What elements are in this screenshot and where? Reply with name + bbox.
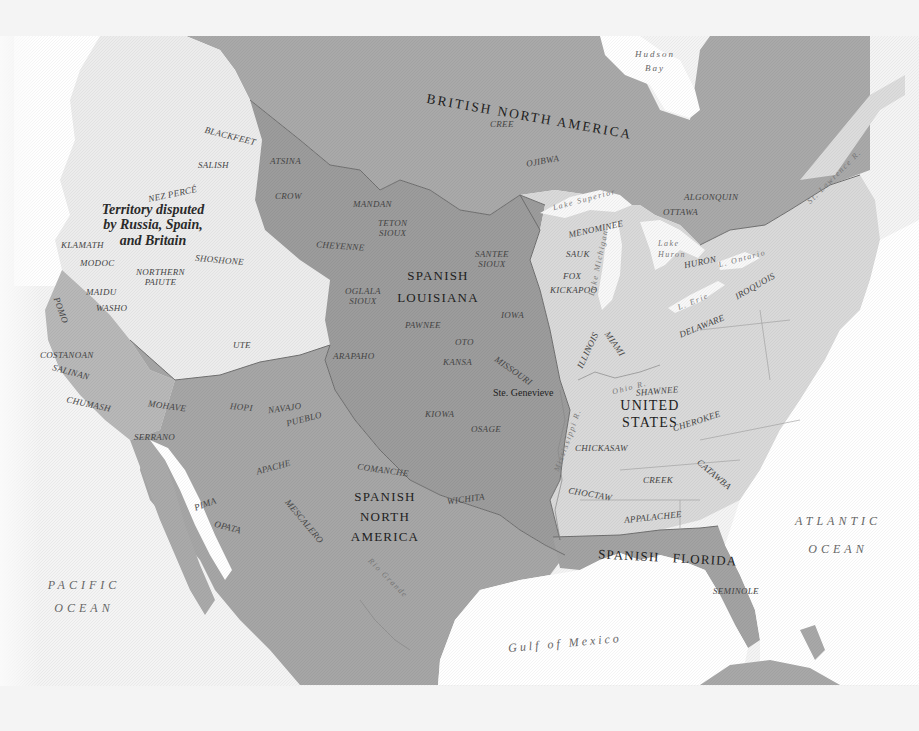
- tribe-hopi: HOPI: [230, 402, 253, 413]
- label-spanish-louisiana: SPANISH LOUISIANA: [388, 265, 488, 309]
- tribe-osage: OSAGE: [471, 425, 501, 434]
- tribe-ottawa: OTTAWA: [663, 208, 698, 217]
- label-pacific-2: OCEAN: [44, 597, 124, 620]
- tribe-kiowa: KIOWA: [425, 410, 454, 419]
- label-disputed-territory: Territory disputed by Russia, Spain, and…: [88, 202, 218, 248]
- tribe-pawnee: PAWNEE: [405, 321, 441, 330]
- label-spanish-louisiana-1: SPANISH: [388, 265, 488, 287]
- label-hudson-bay-1: Hudson: [635, 48, 675, 62]
- tribe-teton-sioux-2: SIOUX: [378, 229, 407, 239]
- tribe-washo: WASHO: [96, 304, 127, 313]
- label-hudson-bay: Hudson Bay: [635, 48, 675, 75]
- tribe-creek: CREEK: [643, 476, 673, 485]
- label-hudson-bay-2: Bay: [635, 62, 675, 76]
- tribe-serrano: SERRANO: [134, 433, 175, 442]
- tribe-oglala-sioux-2: SIOUX: [345, 297, 381, 307]
- tribe-seminole: SEMINOLE: [713, 587, 759, 596]
- tribe-algonquin: ALGONQUIN: [684, 193, 738, 202]
- tribe-northern-paiute: NORTHERN PAIUTE: [136, 268, 185, 288]
- tribe-atsina: ATSINA: [270, 157, 301, 166]
- label-atlantic-ocean: ATLANTIC OCEAN: [788, 508, 888, 563]
- label-spanish-north-america-1: SPANISH: [340, 487, 430, 507]
- label-ste-genevieve: Ste. Genevieve: [493, 388, 554, 398]
- tribe-maidu: MAIDU: [86, 288, 117, 297]
- tribe-ute: UTE: [233, 341, 251, 350]
- tribe-modoc: MODOC: [80, 259, 115, 268]
- label-spanish-north-america: SPANISH NORTH AMERICA: [340, 487, 430, 547]
- tribe-teton-sioux: TETON SIOUX: [378, 219, 407, 239]
- tribe-mandan: MANDAN: [353, 200, 392, 209]
- label-disputed-line-2: by Russia, Spain,: [88, 217, 218, 232]
- tribe-oto: OTO: [455, 338, 474, 347]
- label-lake-huron-1: Lake: [658, 238, 686, 249]
- tribe-klamath: KLAMATH: [61, 241, 104, 250]
- tribe-fox: FOX: [563, 272, 581, 281]
- label-spanish-north-america-3: AMERICA: [340, 527, 430, 547]
- tribe-iowa: IOWA: [501, 311, 524, 320]
- label-lake-huron: Lake Huron: [658, 238, 686, 260]
- tribe-oglala-sioux: OGLALA SIOUX: [345, 287, 381, 307]
- tribe-salish: SALISH: [198, 161, 229, 170]
- label-atlantic-2: OCEAN: [788, 536, 888, 564]
- tribe-arapaho: ARAPAHO: [333, 352, 374, 361]
- historical-map-north-america: BRITISH NORTH AMERICA Territory disputed…: [0, 0, 919, 731]
- label-pacific-1: PACIFIC: [44, 574, 124, 597]
- label-atlantic-1: ATLANTIC: [788, 508, 888, 536]
- tribe-kickapoo: KICKAPOO: [550, 286, 597, 295]
- tribe-santee-sioux: SANTEE SIOUX: [475, 250, 509, 270]
- tribe-chickasaw: CHICKASAW: [575, 444, 628, 453]
- label-pacific-ocean: PACIFIC OCEAN: [44, 574, 124, 620]
- tribe-kansa: KANSA: [443, 358, 472, 367]
- tribe-sauk: SAUK: [566, 250, 590, 259]
- tribe-costanoan: COSTANOAN: [40, 351, 94, 360]
- tribe-crow: CROW: [275, 192, 302, 201]
- tribe-santee-sioux-2: SIOUX: [475, 260, 509, 270]
- tribe-cree: CREE: [490, 120, 514, 129]
- label-united-states-1: UNITED: [610, 398, 690, 415]
- tribe-northern-paiute-2: PAIUTE: [136, 278, 185, 288]
- label-spanish-north-america-2: NORTH: [340, 507, 430, 527]
- label-lake-huron-2: Huron: [658, 249, 686, 260]
- label-disputed-line-3: and Britain: [88, 233, 218, 248]
- label-disputed-line-1: Territory disputed: [88, 202, 218, 217]
- label-spanish-louisiana-2: LOUISIANA: [388, 287, 488, 309]
